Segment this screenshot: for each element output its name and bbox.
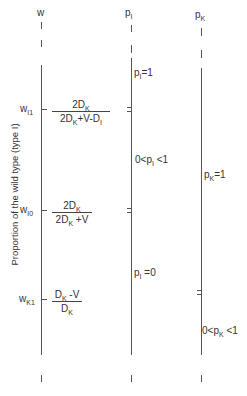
region-pI-between: 0<pI <1: [135, 155, 168, 165]
y-axis-label: Proportion of the wild type (type I): [9, 126, 20, 266]
threshold-wI0-label: wI0: [20, 205, 33, 215]
w-axis-label: w: [37, 8, 44, 18]
formula-wI1: 2DK 2DK+V-DI: [52, 99, 110, 124]
tick-wI0: [42, 210, 47, 211]
region-pK-eq1: pK=1: [204, 170, 226, 180]
region-pK-between: 0<pK <1: [202, 326, 238, 336]
formula-wK1: DK -V DK: [52, 289, 82, 314]
formula-wI0: 2DK 2DK +V: [52, 200, 92, 225]
threshold-wK1-label: wK1: [19, 294, 35, 304]
break-marker: [127, 208, 131, 213]
tick-wI1: [42, 109, 47, 110]
break-marker: [127, 107, 131, 112]
pK-axis-label: pK: [195, 10, 205, 20]
region-pI-eq0: pI =0: [134, 268, 156, 278]
break-marker: [197, 290, 201, 295]
pI-axis-label: pI: [125, 8, 133, 18]
threshold-wI1-label: wI1: [20, 104, 33, 114]
region-pI-eq1: pI=1: [134, 68, 153, 78]
tick-wK1: [42, 299, 47, 300]
